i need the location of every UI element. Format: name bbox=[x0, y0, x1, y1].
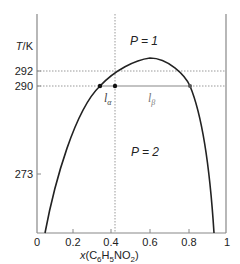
point-overall bbox=[113, 84, 117, 88]
phase-boundary-curve bbox=[45, 58, 214, 233]
x-tick-label-0: 0 bbox=[34, 236, 40, 248]
point-alpha bbox=[98, 84, 102, 88]
y-tick-label-273: 273 bbox=[15, 168, 33, 180]
region-label-p1: P = 1 bbox=[130, 34, 158, 48]
x-tick-label-0.2: 0.2 bbox=[65, 236, 80, 248]
lever-alpha-label: lα bbox=[104, 91, 112, 107]
y-tick-label-292: 292 bbox=[15, 65, 33, 77]
y-tick-label-290: 290 bbox=[15, 80, 33, 92]
lever-beta-label: lβ bbox=[148, 91, 155, 107]
point-beta bbox=[188, 84, 192, 88]
y-axis-title: T/K bbox=[16, 40, 34, 52]
x-tick-label-0.4: 0.4 bbox=[103, 236, 118, 248]
x-axis-title: x(C6H5NO2) bbox=[80, 249, 139, 264]
x-tick-label-0.8: 0.8 bbox=[181, 236, 196, 248]
region-label-p2: P = 2 bbox=[131, 145, 159, 159]
x-tick-label-1: 1 bbox=[224, 236, 230, 248]
x-tick-label-0.6: 0.6 bbox=[142, 236, 157, 248]
